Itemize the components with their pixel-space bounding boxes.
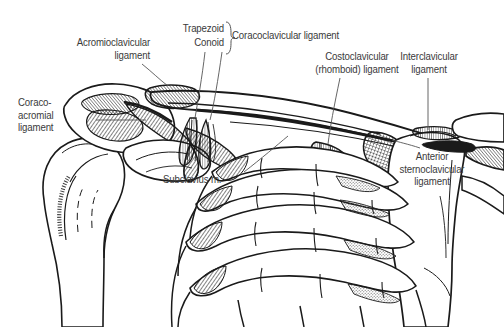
label-anterior-sternoclavicular-ligament: Anterior sternoclavicular ligament bbox=[381, 150, 482, 188]
label-coracoacromial-ligament: Coraco- acromial ligament bbox=[18, 96, 92, 134]
anatomy-figure: Acromioclavicular ligament Coraco- acrom… bbox=[0, 0, 504, 327]
label-coracoclavicular-ligament: Coracoclavicular ligament bbox=[232, 29, 361, 42]
label-trapezoid: Trapezoid bbox=[172, 22, 224, 35]
leader-acromioclavicular bbox=[142, 64, 168, 86]
label-conoid: Conoid bbox=[172, 36, 224, 49]
acromioclavicular-joint bbox=[145, 85, 199, 108]
label-interclavicular-ligament: Interclavicular ligament bbox=[387, 50, 472, 75]
humerus-head bbox=[43, 138, 125, 327]
label-acromioclavicular-ligament: Acromioclavicular ligament bbox=[32, 36, 150, 61]
label-subclavius-muscle: Subclavius m. bbox=[163, 173, 242, 186]
